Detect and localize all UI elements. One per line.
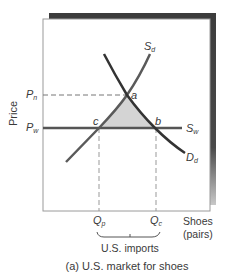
pw-label: Pw xyxy=(26,121,39,134)
qc-label: Qc xyxy=(150,214,163,227)
x-axis-label-line2: (pairs) xyxy=(183,228,213,240)
point-a-label: a xyxy=(131,89,137,101)
pn-label: Pn xyxy=(26,88,37,101)
diagram-caption: (a) U.S. market for shoes xyxy=(66,260,189,272)
qp-label: Qp xyxy=(93,214,106,228)
imports-label: U.S. imports xyxy=(101,242,159,254)
shoe-market-diagram: Sd Dd Sw a b c Pn Pw Price Qp Qc Shoes (… xyxy=(0,0,229,275)
y-axis-label: Price xyxy=(7,101,19,126)
frame-right-shadow xyxy=(210,13,216,205)
point-b-label: b xyxy=(155,115,161,127)
frame-top-shadow xyxy=(49,13,216,19)
point-c-label: c xyxy=(93,115,99,127)
x-axis-label-line1: Shoes xyxy=(183,215,213,227)
imports-bracket xyxy=(97,232,160,237)
